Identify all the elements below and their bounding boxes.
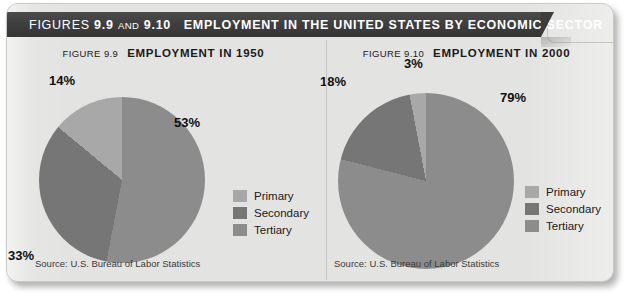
legend-2000: Primary Secondary Tertiary	[525, 183, 601, 234]
pie-2000-label-primary: 3%	[404, 56, 423, 71]
panel-1950-title-text: EMPLOYMENT IN 1950	[127, 47, 264, 59]
figure-panels: FIGURE 9.9 EMPLOYMENT IN 1950 53% 33% 14…	[7, 37, 613, 281]
legend-swatch-secondary-icon	[233, 207, 247, 219]
pie-1950-label-tertiary: 53%	[174, 115, 200, 130]
legend-label-primary: Primary	[254, 190, 294, 202]
header-figure-a: 9.9	[94, 18, 114, 32]
legend-label-tertiary: Tertiary	[546, 220, 584, 232]
legend-item-primary: Primary	[525, 183, 601, 200]
legend-label-tertiary: Tertiary	[254, 224, 292, 236]
legend-label-primary: Primary	[546, 186, 586, 198]
pie-1950-label-primary: 14%	[49, 73, 75, 88]
header-figure-b: 9.10	[144, 18, 171, 32]
source-note-2000: Source: U.S. Bureau of Labor Statistics	[334, 258, 499, 269]
legend-swatch-tertiary-icon	[525, 220, 539, 232]
panel-divider	[326, 40, 327, 280]
legend-swatch-tertiary-icon	[233, 224, 247, 236]
source-note-1950: Source: U.S. Bureau of Labor Statistics	[35, 258, 200, 269]
legend-swatch-secondary-icon	[525, 203, 539, 215]
figure-card: FIGURES 9.9 AND 9.10 EMPLOYMENT IN THE U…	[6, 3, 614, 282]
legend-item-secondary: Secondary	[233, 204, 309, 221]
pie-1950-label-secondary: 33%	[8, 248, 34, 263]
legend-swatch-primary-icon	[525, 186, 539, 198]
banner-fold-corner	[541, 12, 554, 37]
pie-2000-label-tertiary: 79%	[500, 90, 526, 105]
legend-item-tertiary: Tertiary	[525, 217, 601, 234]
panel-employment-1950: FIGURE 9.9 EMPLOYMENT IN 1950 53% 33% 14…	[7, 37, 320, 281]
header-prefix: FIGURES	[29, 18, 90, 32]
panel-1950-title: FIGURE 9.9 EMPLOYMENT IN 1950	[7, 43, 320, 61]
legend-item-tertiary: Tertiary	[233, 221, 309, 238]
panel-employment-2000: FIGURE 9.10 EMPLOYMENT IN 2000 79% 18% 3…	[320, 37, 613, 281]
banner-fold-shadow	[541, 37, 571, 47]
legend-label-secondary: Secondary	[546, 203, 601, 215]
pie-2000-label-secondary: 18%	[320, 74, 346, 89]
legend-1950: Primary Secondary Tertiary	[233, 187, 309, 238]
panel-1950-figure-number: FIGURE 9.9	[63, 48, 119, 59]
header-conjunction: AND	[118, 20, 140, 31]
panel-2000-title-text: EMPLOYMENT IN 2000	[433, 47, 570, 59]
figure-header-banner: FIGURES 9.9 AND 9.10 EMPLOYMENT IN THE U…	[7, 12, 541, 37]
legend-swatch-primary-icon	[233, 190, 247, 202]
pie-chart-2000	[338, 93, 514, 269]
legend-item-secondary: Secondary	[525, 200, 601, 217]
legend-label-secondary: Secondary	[254, 207, 309, 219]
legend-item-primary: Primary	[233, 187, 309, 204]
